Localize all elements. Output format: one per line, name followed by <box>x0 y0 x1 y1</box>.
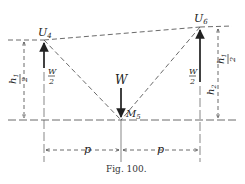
svg-text:W: W <box>189 67 198 76</box>
svg-text:h1: h1 <box>215 54 227 64</box>
svg-text:h1: h1 <box>7 74 19 84</box>
span-label-left: p <box>84 143 91 156</box>
height-label-left: h1 2 <box>7 74 29 84</box>
svg-text:2: 2 <box>189 77 195 86</box>
svg-text:2: 2 <box>228 57 237 63</box>
figure-caption: Fig. 100. <box>106 164 147 174</box>
svg-text:W: W <box>48 67 57 76</box>
node-label-m5: M5 <box>125 108 141 121</box>
load-label-right: W 2 <box>189 67 198 86</box>
span-label-right: p <box>157 143 164 156</box>
node-label-u6: U6 <box>194 12 208 26</box>
svg-text:h2: h2 <box>205 85 217 95</box>
load-label-w: W <box>115 73 129 87</box>
svg-text:2: 2 <box>48 77 54 86</box>
node-label-u4: U4 <box>38 26 52 40</box>
truss-diagram: U4 U6 M5 W W 2 W 2 h1 2 h1 2 h2 p p Fig.… <box>0 0 245 184</box>
diagonal-left <box>44 40 121 120</box>
svg-text:2: 2 <box>20 77 29 83</box>
height-label-right-lower: h2 <box>205 85 217 95</box>
load-label-left: W 2 <box>48 67 57 86</box>
height-label-right-upper: h1 2 <box>215 54 237 64</box>
